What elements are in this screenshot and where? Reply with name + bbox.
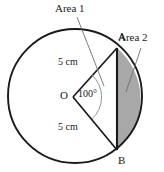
circle-diagram: [0, 0, 164, 172]
point-a-label: A: [118, 31, 126, 42]
central-angle-label: 100°: [78, 89, 97, 99]
point-b-label: B: [118, 155, 125, 166]
lower-radius-length-label: 5 cm: [58, 122, 78, 132]
area1-leader-line: [77, 17, 104, 86]
radius-ob-line: [73, 97, 117, 150]
area1-label: Area 1: [55, 3, 85, 14]
upper-radius-length-label: 5 cm: [58, 57, 78, 67]
center-point-label: O: [60, 90, 68, 101]
